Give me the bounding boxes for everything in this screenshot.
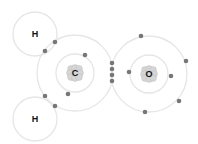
electron bbox=[184, 59, 189, 64]
electron bbox=[110, 73, 115, 78]
atom-o: O bbox=[141, 66, 158, 83]
atom-label: C bbox=[72, 68, 79, 78]
electron bbox=[169, 74, 174, 79]
electron bbox=[127, 70, 132, 75]
electron bbox=[66, 92, 71, 97]
atom-label: H bbox=[32, 114, 39, 124]
electron bbox=[139, 34, 144, 39]
electron bbox=[177, 99, 182, 104]
molecule-diagram: HHCO bbox=[0, 0, 198, 144]
electron bbox=[53, 40, 58, 45]
atom-h2: H bbox=[32, 114, 39, 124]
electron bbox=[83, 53, 88, 58]
electron bbox=[110, 61, 115, 66]
atom-label: O bbox=[145, 69, 152, 79]
electron bbox=[110, 67, 115, 72]
electron bbox=[43, 94, 48, 99]
electron bbox=[143, 110, 148, 115]
electron bbox=[43, 49, 48, 54]
atom-label: H bbox=[32, 29, 39, 39]
atom-h1: H bbox=[32, 29, 39, 39]
electron bbox=[53, 104, 58, 109]
atom-c: C bbox=[67, 65, 84, 82]
electron bbox=[110, 79, 115, 84]
